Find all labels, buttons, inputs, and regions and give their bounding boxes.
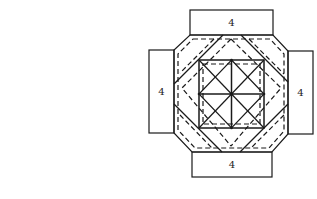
dashed-diamond-right bbox=[231, 39, 281, 146]
octagon-net-diagram: 4 4 4 4 bbox=[0, 0, 317, 199]
dashed-diamond-left bbox=[182, 39, 231, 146]
dashed-diamond-tr bbox=[249, 39, 284, 74]
left-flap-label: 4 bbox=[158, 86, 164, 97]
bottom-flap-label: 4 bbox=[229, 159, 235, 170]
right-flap-label: 4 bbox=[297, 87, 303, 98]
dashed-diamond-tl bbox=[180, 39, 214, 73]
top-flap-label: 4 bbox=[228, 17, 234, 28]
center-dot bbox=[230, 92, 234, 96]
